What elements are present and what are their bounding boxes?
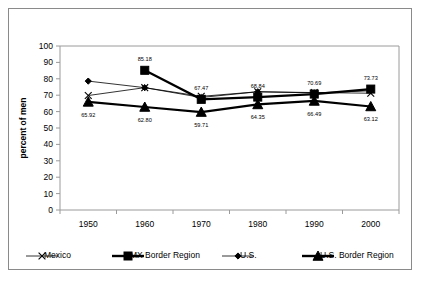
data-point-label: 63.12 — [364, 116, 378, 122]
legend-label: Mexico — [44, 250, 71, 260]
x-tick-label: 1990 — [305, 219, 324, 229]
plot-area-frame — [60, 46, 399, 210]
legend-item-mx-border-region[interactable]: MX Border Region — [112, 250, 200, 260]
legend-item-u-s-border-region[interactable]: U.S. Border Region — [302, 250, 394, 260]
data-point-label: 70.69 — [307, 80, 321, 86]
y-tick-label: 90 — [44, 57, 54, 67]
legend-label: U.S. Border Region — [320, 250, 394, 260]
y-tick-label: 0 — [48, 205, 53, 215]
data-point-label: 59.71 — [194, 122, 208, 128]
legend-label: MX Border Region — [130, 250, 200, 260]
data-point-label: 73.73 — [364, 75, 378, 81]
y-tick-label: 70 — [44, 90, 54, 100]
x-tick-label: 1960 — [135, 219, 154, 229]
y-tick-label: 100 — [39, 41, 53, 51]
data-point-label: 68.84 — [251, 83, 265, 89]
legend-label: U.S. — [240, 250, 257, 260]
y-tick-label: 10 — [44, 189, 54, 199]
data-point-label: 66.49 — [307, 111, 321, 117]
data-point-label: 67.47 — [194, 85, 208, 91]
x-tick-label: 2000 — [361, 219, 380, 229]
data-point-label: 62.80 — [138, 117, 152, 123]
marker-square — [141, 66, 149, 74]
legend-item-u-s[interactable]: U.S. — [222, 250, 257, 260]
y-axis: 0102030405060708090100 — [39, 41, 60, 215]
x-tick-label: 1970 — [192, 219, 211, 229]
y-axis-title-text: percent of men — [18, 98, 28, 159]
chart-legend: MexicoMX Border RegionU.S.U.S. Border Re… — [26, 250, 394, 260]
y-tick-label: 80 — [44, 74, 54, 84]
y-tick-label: 40 — [44, 139, 54, 149]
data-point-label: 85.18 — [138, 56, 152, 62]
data-point-label: 64.35 — [251, 114, 265, 120]
y-tick-label: 30 — [44, 156, 54, 166]
x-axis: 195019601970198019902000 — [60, 210, 399, 229]
x-tick-label: 1950 — [79, 219, 98, 229]
chart-figure: 0102030405060708090100 19501960197019801… — [0, 0, 422, 284]
series-line — [88, 101, 371, 112]
legend-item-mexico[interactable]: Mexico — [26, 250, 71, 260]
marker-diamond — [85, 78, 91, 84]
x-tick-label: 1980 — [248, 219, 267, 229]
line-chart: 0102030405060708090100 19501960197019801… — [0, 0, 422, 284]
y-tick-label: 50 — [44, 123, 54, 133]
data-point-label: 65.92 — [81, 112, 95, 118]
y-tick-label: 20 — [44, 172, 54, 182]
y-tick-label: 60 — [44, 107, 54, 117]
y-axis-title: percent of men — [18, 98, 28, 159]
series-layer — [83, 66, 376, 116]
